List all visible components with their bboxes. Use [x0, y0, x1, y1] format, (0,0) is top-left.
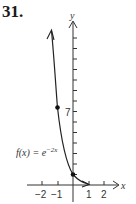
y-ticks: [73, 38, 77, 175]
point-neg1: [55, 105, 60, 110]
x-tick-label: −1: [51, 189, 63, 200]
point-0: [71, 172, 76, 177]
curve-arrow-up-icon: [47, 30, 54, 40]
y-tick-label: 7: [65, 107, 71, 118]
x-tick-label: 2: [101, 189, 107, 200]
x-tick-label: 1: [86, 189, 92, 200]
function-graph: −2 −1 1 2 7 x y f(x) = e−2x: [0, 0, 136, 204]
x-axis-label: x: [120, 180, 126, 191]
curve-arrow-right-icon: [82, 181, 89, 187]
function-label: f(x) = e−2x: [16, 146, 58, 159]
x-tick-label: −2: [35, 189, 47, 200]
y-axis-label: y: [69, 10, 75, 21]
